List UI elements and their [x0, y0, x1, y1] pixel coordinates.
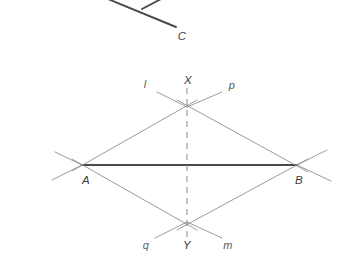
geometry-figure: ABXYClpqm — [0, 0, 343, 258]
point-label-A: A — [82, 174, 90, 186]
segment-layer — [52, 0, 331, 238]
arc-extension-upper-right-p — [187, 92, 222, 107]
arc-extension-left-of-A-lower — [52, 165, 82, 180]
top-fragment-main — [108, 0, 176, 27]
arc-line-X-B — [177, 100, 308, 172]
line-label-l: l — [144, 78, 147, 90]
arc-extension-upper-left-l — [157, 92, 187, 107]
arc-extension-right-of-B-upper — [297, 150, 327, 165]
arc-line-A-X — [72, 100, 197, 171]
geometry-canvas — [0, 0, 343, 258]
arc-extension-left-of-A-upper — [55, 152, 82, 165]
arc-line-A-Y — [72, 159, 197, 230]
arc-line-Y-B — [177, 159, 308, 230]
point-label-X: X — [184, 74, 192, 86]
line-label-m: m — [223, 239, 232, 251]
top-fragment-branch — [142, 0, 161, 9]
arc-extension-lower-left-q — [155, 222, 187, 238]
point-label-Y: Y — [183, 239, 191, 251]
line-label-q: q — [143, 239, 149, 251]
point-label-C: C — [178, 30, 187, 42]
line-label-p: p — [229, 79, 235, 91]
arc-extension-lower-right-m — [187, 222, 222, 238]
point-label-B: B — [295, 174, 303, 186]
